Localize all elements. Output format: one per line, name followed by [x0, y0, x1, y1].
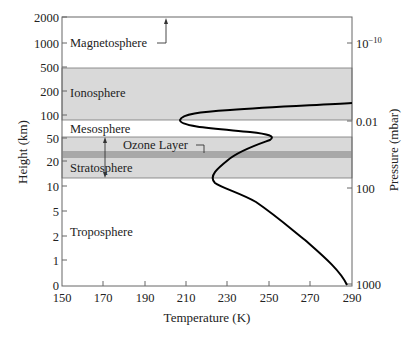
- ionosphere-label: Ionosphere: [70, 86, 126, 100]
- y2-tick-label: 10−10: [356, 35, 382, 51]
- y-tick-label: 50: [47, 132, 60, 146]
- x-tick-label: 250: [260, 291, 279, 305]
- temperature-curve: [180, 103, 352, 285]
- x-tick-label: 170: [94, 291, 113, 305]
- stratosphere-label: Stratosphere: [70, 161, 133, 175]
- magnetosphere-label: Magnetosphere: [70, 36, 148, 50]
- x-tick-label: 150: [53, 291, 72, 305]
- x-tick-label: 190: [136, 291, 155, 305]
- y2-axis-title: Pressure (mbar): [386, 109, 401, 192]
- y-tick-label: 5: [53, 205, 59, 219]
- ozone-layer-label: Ozone Layer: [123, 138, 189, 152]
- y-tick-label: 1000: [34, 37, 59, 51]
- y-axis-title: Height (km): [15, 120, 30, 184]
- atmosphere-chart: 2000 1000 500 200 100 50 20 10 5 2 1 0 1…: [0, 0, 413, 337]
- x-axis-title: Temperature (K): [164, 310, 251, 325]
- y-tick-label: 10: [47, 180, 60, 194]
- arrow-up-icon: [164, 18, 168, 24]
- x-tick-label: 290: [343, 291, 362, 305]
- ozone-layer-band: [62, 151, 352, 158]
- x-tick-label: 270: [301, 291, 320, 305]
- troposphere-label: Troposphere: [70, 225, 133, 239]
- y-tick-label: 200: [40, 85, 59, 99]
- y-tick-label: 100: [40, 109, 59, 123]
- y-tick-label: 500: [40, 61, 59, 75]
- y-axis-labels: 2000 1000 500 200 100 50 20 10 5 2 1 0: [34, 11, 59, 293]
- y-tick-label: 2: [53, 230, 59, 244]
- y2-tick-label: 1000: [356, 278, 381, 292]
- y2-axis-labels: 10−10 0.01 100 1000: [356, 35, 382, 292]
- magnetosphere-arrow: [157, 22, 166, 43]
- x-axis-labels: 150 170 190 210 230 250 270 290: [53, 291, 362, 305]
- y-tick-label: 2000: [34, 11, 59, 25]
- x-tick-label: 210: [177, 291, 196, 305]
- y-tick-label: 20: [47, 155, 60, 169]
- y-tick-label: 1: [53, 254, 59, 268]
- x-axis-ticks: [103, 281, 310, 286]
- mesosphere-label: Mesosphere: [70, 122, 131, 136]
- y2-tick-label: 0.01: [356, 115, 378, 129]
- x-tick-label: 230: [218, 291, 237, 305]
- y2-tick-label: 100: [356, 182, 375, 196]
- y-axis-ticks: [62, 17, 67, 260]
